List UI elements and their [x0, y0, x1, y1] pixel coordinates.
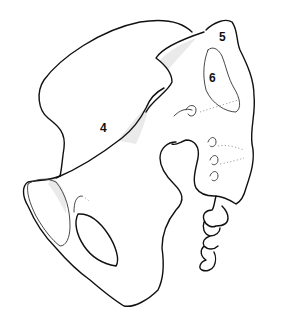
coccyx	[200, 196, 228, 271]
sacrum-wing-edge	[146, 32, 204, 112]
label-4: 4	[100, 122, 107, 134]
ilium-outline	[39, 20, 192, 176]
obturator-foramen	[76, 214, 118, 266]
obturator-dots	[82, 196, 90, 202]
label-5: 5	[219, 31, 226, 43]
sacral-foramen-1	[186, 106, 196, 117]
pelvis-drawing	[0, 0, 283, 331]
acetabulum-rim	[27, 179, 70, 246]
sacral-foramen-4	[210, 172, 218, 181]
sacral-foramen-5	[174, 109, 192, 116]
sacral-foramen-2	[208, 138, 216, 147]
ischium-outline	[24, 142, 182, 306]
sacral-ridge	[200, 100, 244, 164]
label-6: 6	[209, 72, 216, 84]
ilium-lower-edge	[56, 88, 164, 178]
sacral-foramen-3	[210, 156, 218, 165]
obturator-top	[74, 196, 82, 212]
pelvis-diagram: 4 5 6	[0, 0, 283, 331]
